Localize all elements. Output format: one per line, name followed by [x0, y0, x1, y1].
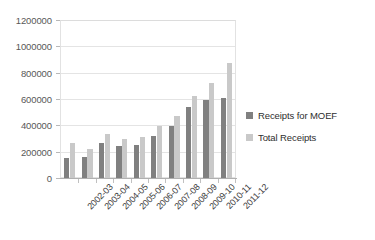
bar-group	[96, 21, 113, 178]
bar	[174, 116, 179, 178]
bar-group	[78, 21, 95, 178]
bar	[221, 98, 226, 178]
y-axis-tickmark	[56, 46, 60, 47]
bar-series-container	[61, 21, 235, 178]
bar	[203, 100, 208, 179]
bar	[209, 83, 214, 179]
bar	[105, 134, 110, 178]
bar	[82, 157, 87, 178]
bar-group	[218, 21, 235, 178]
bar-group	[165, 21, 182, 178]
legend-swatch-icon	[246, 134, 253, 141]
y-axis-tickmark	[56, 99, 60, 100]
legend-item-label: Receipts for MOEF	[258, 110, 337, 121]
y-axis-tick-label: 800000	[0, 67, 52, 78]
x-axis-labels: 2002-032003-042004-052005-062006-072007-…	[0, 182, 375, 240]
y-axis-tick-label: 600000	[0, 94, 52, 105]
y-axis-tick-label: 400000	[0, 120, 52, 131]
bar	[122, 139, 127, 178]
bar	[151, 136, 156, 178]
bar-group	[61, 21, 78, 178]
y-axis-tick-label: 200000	[0, 146, 52, 157]
bar	[157, 126, 162, 178]
bar	[186, 107, 191, 178]
bar-chart: 1200000 1000000 800000 600000 400000 200…	[0, 0, 375, 240]
y-axis-tickmark	[56, 152, 60, 153]
bar	[140, 137, 145, 178]
legend-item-total-receipts: Total Receipts	[246, 132, 337, 143]
chart-legend: Receipts for MOEF Total Receipts	[246, 110, 337, 154]
bar	[192, 96, 197, 178]
bar-group	[148, 21, 165, 178]
bar	[64, 158, 69, 178]
bar	[87, 149, 92, 178]
bar	[116, 146, 121, 178]
bar-group	[183, 21, 200, 178]
y-axis-tick-label: 1000000	[0, 41, 52, 52]
bar-group	[113, 21, 130, 178]
legend-item-label: Total Receipts	[258, 132, 316, 143]
y-axis-tickmark	[56, 125, 60, 126]
y-axis-tickmark	[56, 73, 60, 74]
legend-item-receipts-for-moef: Receipts for MOEF	[246, 110, 337, 121]
bar	[70, 143, 75, 178]
y-axis-tick-label: 1200000	[0, 15, 52, 26]
bar	[99, 143, 104, 178]
bar-group	[131, 21, 148, 178]
bar	[134, 145, 139, 178]
legend-swatch-icon	[246, 112, 253, 119]
bar-group	[200, 21, 217, 178]
y-axis-tickmark	[56, 20, 60, 21]
bar	[227, 63, 232, 178]
bar	[169, 126, 174, 178]
